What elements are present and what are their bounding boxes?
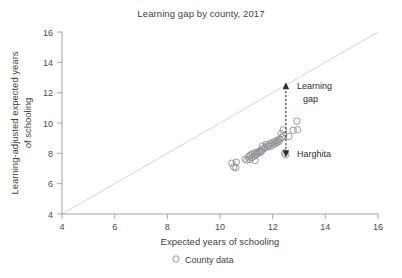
y-axis-tick-labels: 16 14 12 10 8 6 4 (43, 28, 53, 220)
scatter-plot-canvas: 16 14 12 10 8 6 4 4 6 8 10 12 14 16 (0, 0, 402, 278)
parity-reference-line (62, 32, 378, 214)
legend-label-county-data: County data (185, 255, 234, 265)
legend-marker-icon (173, 256, 179, 262)
x-axis-label: Expected years of schooling (161, 236, 280, 247)
x-axis-ticks (62, 214, 378, 219)
x-tick-label: 6 (112, 222, 117, 232)
learning-gap-annotation: Learning gap (283, 81, 332, 157)
y-tick-label: 10 (43, 119, 53, 129)
y-tick-label: 6 (48, 179, 53, 189)
data-point-group (229, 118, 301, 171)
y-axis-ticks (57, 32, 62, 214)
y-tick-label: 8 (48, 149, 53, 159)
x-axis-tick-labels: 4 6 8 10 12 14 16 (59, 222, 383, 232)
harghita-label: Harghita (297, 149, 331, 159)
x-tick-label: 4 (59, 222, 64, 232)
data-point (294, 127, 300, 133)
x-tick-label: 12 (268, 222, 278, 232)
chart-legend: County data (173, 255, 234, 265)
x-tick-label: 8 (165, 222, 170, 232)
y-axis-label-line2: of schooling (22, 98, 33, 149)
learning-gap-label-line1: Learning (297, 81, 332, 91)
y-tick-label: 16 (43, 28, 53, 38)
y-axis-label-line1: Learning-adjusted expected years (9, 51, 20, 194)
learning-gap-label-line2: gap (303, 94, 318, 104)
x-tick-label: 14 (320, 222, 330, 232)
y-tick-label: 14 (43, 58, 53, 68)
data-point (294, 118, 300, 124)
x-tick-label: 10 (215, 222, 225, 232)
chart-figure: Learning gap by county, 2017 16 14 12 10… (0, 0, 402, 278)
y-tick-label: 12 (43, 88, 53, 98)
x-tick-label: 16 (373, 222, 383, 232)
y-tick-label: 4 (48, 210, 53, 220)
